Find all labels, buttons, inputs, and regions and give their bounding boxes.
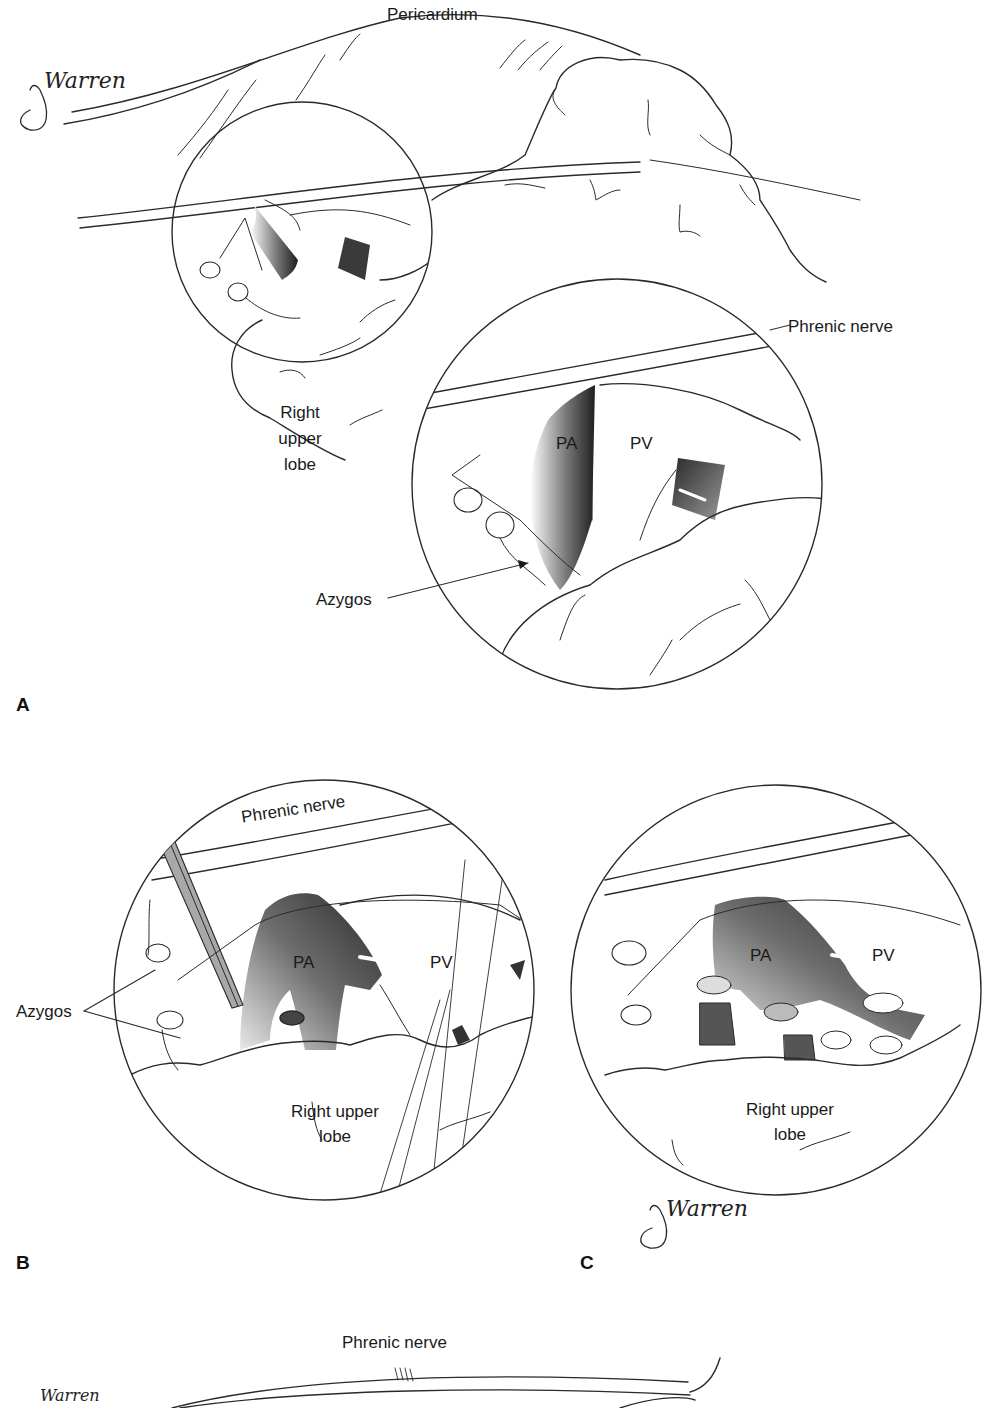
label-pv-b: PV (430, 953, 453, 973)
label-azygos-b: Azygos (16, 1002, 72, 1022)
signature-c: Warren (666, 1196, 748, 1221)
label-right-upper-lobe-a-3: lobe (265, 455, 335, 475)
panel-letter-c: C (580, 1252, 594, 1274)
label-right-upper-lobe-c-1: Right upper (735, 1100, 845, 1120)
signature-d: Warren (40, 1386, 100, 1405)
signature-a: Warren (44, 68, 126, 93)
panel-d-artwork (172, 1358, 720, 1408)
panel-letter-b: B (16, 1252, 30, 1274)
label-right-upper-lobe-b-2: lobe (280, 1127, 390, 1147)
panel-a-artwork (64, 15, 860, 689)
label-pv-c: PV (872, 946, 895, 966)
label-phrenic-nerve-a: Phrenic nerve (788, 317, 893, 337)
label-right-upper-lobe-a-2: upper (265, 429, 335, 449)
panel-letter-a: A (16, 694, 30, 716)
label-right-upper-lobe-c-2: lobe (735, 1125, 845, 1145)
label-right-upper-lobe-b-1: Right upper (280, 1102, 390, 1122)
label-pericardium: Pericardium (387, 5, 478, 25)
label-phrenic-nerve-d: Phrenic nerve (342, 1333, 447, 1353)
label-pa-a: PA (556, 434, 577, 454)
label-right-upper-lobe-a-1: Right (265, 403, 335, 423)
label-pa-c: PA (750, 946, 771, 966)
label-azygos-a: Azygos (316, 590, 372, 610)
surgical-illustration (0, 0, 992, 1408)
label-pa-b: PA (293, 953, 314, 973)
label-pv-a: PV (630, 434, 653, 454)
